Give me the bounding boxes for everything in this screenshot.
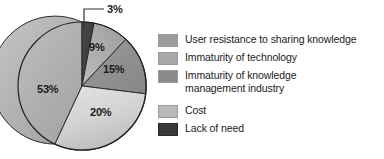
legend-label-immaturity-technology: Immaturity of technology — [185, 51, 297, 64]
legend-swatch-immaturity-km-industry — [158, 70, 178, 83]
chart-legend: User resistance to sharing knowledge Imm… — [158, 33, 384, 140]
legend-item-user-resistance: User resistance to sharing knowledge — [158, 33, 384, 47]
pie-label-cost: 20% — [90, 107, 111, 118]
pie-label-immaturity-km-industry: 15% — [103, 64, 124, 75]
pie-chart-figure: 53% 9% 15% 20% 3% User resistance to sha… — [0, 0, 384, 159]
legend-label-immaturity-km-industry: Immaturity of knowledge management indus… — [185, 69, 297, 94]
pie-label-immaturity-technology: 9% — [89, 42, 105, 53]
legend-item-cost: Cost — [158, 104, 384, 118]
legend-label-lack-of-need: Lack of need — [185, 122, 244, 135]
pie-label-user-resistance: 53% — [37, 84, 58, 95]
legend-item-immaturity-technology: Immaturity of technology — [158, 51, 384, 65]
pie-chart-svg — [0, 0, 165, 159]
pie-label-lack-of-need: 3% — [107, 4, 123, 15]
pie-chart-plot-area: 53% 9% 15% 20% 3% — [0, 0, 165, 159]
legend-label-cost: Cost — [185, 104, 206, 117]
legend-swatch-immaturity-technology — [158, 52, 178, 65]
legend-label-user-resistance: User resistance to sharing knowledge — [185, 33, 357, 46]
legend-swatch-user-resistance — [158, 34, 178, 47]
legend-swatch-lack-of-need — [158, 123, 178, 136]
legend-item-immaturity-km-industry: Immaturity of knowledge management indus… — [158, 69, 384, 94]
legend-item-lack-of-need: Lack of need — [158, 122, 384, 136]
legend-swatch-cost — [158, 105, 178, 118]
